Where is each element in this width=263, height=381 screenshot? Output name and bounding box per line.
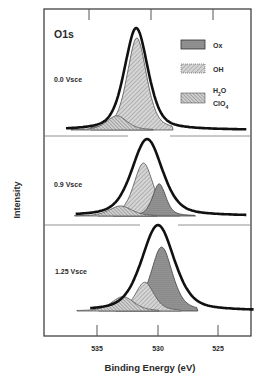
legend-label-clo4: ClO4 (213, 100, 228, 110)
xps-o1s-chart: O1s 0.0 Vsce 0.9 Vsce 1.25 Vsce Ox OH H2… (0, 0, 263, 381)
tick-label-530: 530 (152, 345, 164, 352)
spectra (66, 28, 254, 311)
legend-swatch-ox (181, 40, 205, 49)
tick-label-525: 525 (212, 345, 224, 352)
legend-label-oh: OH (213, 66, 224, 73)
legend-label-h2o: H2O (213, 87, 227, 97)
top-ticks (89, 9, 213, 20)
spectrum-panel-3 (77, 225, 254, 311)
x-axis-label: Binding Energy (eV) (105, 362, 196, 373)
bottom-ticks (97, 325, 218, 336)
legend-label-ox: Ox (213, 42, 222, 49)
legend-swatch-h2o (181, 93, 205, 103)
panel-label-1-25v: 1.25 Vsce (55, 268, 87, 275)
chart-title: O1s (54, 28, 74, 40)
legend-swatch-oh (181, 64, 205, 73)
panel-label-0-9v: 0.9 Vsce (54, 181, 82, 188)
legend: Ox OH H2O ClO4 (181, 40, 228, 110)
y-axis-label: Intensity (12, 181, 22, 218)
component-oh (91, 38, 173, 130)
panel-label-0v: 0.0 Vsce (54, 76, 82, 83)
tick-label-535: 535 (91, 345, 103, 352)
spectrum-panel-2 (75, 139, 247, 216)
